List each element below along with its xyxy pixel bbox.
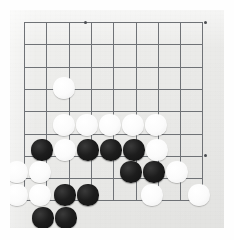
white-stone[interactable]: [146, 139, 167, 160]
black-stone[interactable]: [77, 184, 98, 205]
black-stone[interactable]: [77, 139, 98, 160]
white-stone[interactable]: [145, 114, 166, 135]
white-stone[interactable]: [76, 114, 97, 135]
go-stones-layer: [0, 0, 234, 240]
white-stone[interactable]: [166, 161, 187, 182]
black-stone[interactable]: [123, 139, 144, 160]
black-stone[interactable]: [100, 139, 121, 160]
photo-top-margin: [0, 0, 234, 10]
white-stone[interactable]: [53, 114, 74, 135]
white-stone[interactable]: [29, 184, 50, 205]
photo-right-margin: [224, 0, 234, 240]
black-stone[interactable]: [31, 139, 52, 160]
white-stone[interactable]: [188, 184, 209, 205]
black-stone[interactable]: [143, 161, 164, 182]
go-board-screenshot: [0, 0, 234, 240]
photo-left-margin: [0, 0, 10, 240]
white-stone[interactable]: [122, 114, 143, 135]
white-stone[interactable]: [29, 161, 50, 182]
black-stone[interactable]: [55, 207, 76, 228]
white-stone[interactable]: [53, 77, 74, 98]
black-stone[interactable]: [54, 184, 75, 205]
black-stone[interactable]: [120, 161, 141, 182]
white-stone[interactable]: [99, 114, 120, 135]
white-stone[interactable]: [141, 184, 162, 205]
black-stone[interactable]: [32, 207, 53, 228]
white-stone[interactable]: [54, 139, 75, 160]
photo-bottom-margin: [0, 228, 234, 240]
